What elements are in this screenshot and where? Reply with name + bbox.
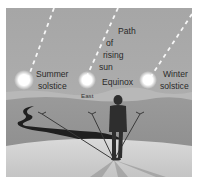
label-path-line1: Path <box>118 26 136 36</box>
sunrise-diagram: Path of rising sun Summer solstice Equin… <box>6 8 192 177</box>
label-winter-line1: Winter <box>163 69 188 79</box>
label-equinox: Equinox <box>102 77 133 87</box>
label-path-line3: rising <box>103 50 124 60</box>
label-summer-line1: Summer <box>36 69 68 79</box>
equinox-sun-icon <box>78 71 96 89</box>
label-summer-line2: solstice <box>38 81 67 91</box>
label-east: East <box>81 92 93 99</box>
scene-illustration <box>6 8 192 177</box>
label-winter-line2: solstice <box>160 81 189 91</box>
label-path-line2: of <box>106 38 113 48</box>
label-path-line4: sun <box>99 62 113 72</box>
winter-sun-icon <box>139 71 157 89</box>
summer-sun-icon <box>14 70 34 90</box>
